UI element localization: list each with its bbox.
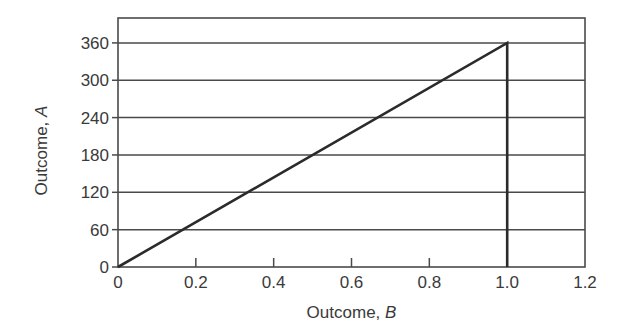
y-axis-title-text: Outcome,	[32, 117, 51, 195]
y-tick-label: 240	[81, 109, 109, 128]
x-tick-label: 1.0	[495, 273, 519, 292]
x-axis-title-text: Outcome,	[307, 303, 385, 322]
x-axis-title: Outcome, B	[307, 303, 397, 322]
x-tick-label: 0.6	[340, 273, 364, 292]
chart-canvas: 00.20.40.60.81.01.2 060120180240300360 O…	[0, 0, 630, 334]
y-axis-title: Outcome, A	[32, 106, 51, 196]
y-tick-label: 120	[81, 183, 109, 202]
y-tick-label: 180	[81, 146, 109, 165]
x-tick-label: 0.2	[184, 273, 208, 292]
y-tick-label: 60	[90, 221, 109, 240]
y-tick-label: 360	[81, 34, 109, 53]
x-tick-label: 0	[113, 273, 122, 292]
y-axis-title-variable: A	[32, 106, 51, 118]
x-axis-title-variable: B	[385, 303, 396, 322]
x-axis-ticks: 00.20.40.60.81.01.2	[113, 258, 597, 292]
y-axis-ticks: 060120180240300360	[81, 34, 118, 277]
horizontal-gridlines	[118, 43, 585, 230]
y-tick-label: 300	[81, 71, 109, 90]
y-tick-label: 0	[100, 258, 109, 277]
x-tick-label: 0.4	[262, 273, 286, 292]
x-tick-label: 0.8	[418, 273, 442, 292]
x-tick-label: 1.2	[573, 273, 597, 292]
